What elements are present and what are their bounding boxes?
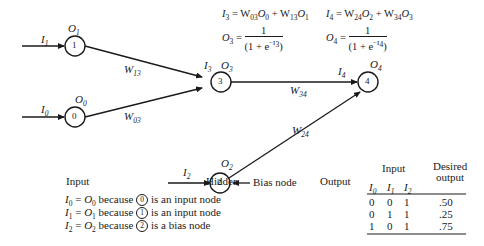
cell-i0: 0 bbox=[369, 208, 375, 220]
node-2-circled-icon: 2 bbox=[136, 220, 148, 232]
cell-desired: .75 bbox=[439, 220, 453, 232]
layer-label-input: Input bbox=[66, 175, 89, 187]
cell-desired: .50 bbox=[439, 196, 453, 208]
weight-w13: W13 bbox=[124, 63, 141, 78]
cell-i0: 0 bbox=[369, 196, 375, 208]
node-0-input-label: I0 bbox=[41, 103, 48, 118]
layer-label-output: Output bbox=[320, 175, 351, 187]
bias-node-label: Bias node bbox=[253, 176, 297, 188]
layer-label-hidden: Hidden bbox=[206, 175, 238, 187]
table-header-output: output bbox=[436, 171, 464, 183]
node-0-output-label: O0 bbox=[75, 93, 87, 108]
cell-i2: 1 bbox=[404, 196, 410, 208]
node-0-circled-icon: 0 bbox=[136, 194, 148, 206]
weight-w24: W24 bbox=[292, 124, 309, 139]
equation-o3: O3 = 1(1 + e−I3) bbox=[222, 25, 283, 53]
node-0-label: 0 bbox=[72, 111, 77, 121]
node-3-input-label: I3 bbox=[204, 59, 211, 74]
node-2-input-label: I2 bbox=[183, 166, 190, 181]
node-4-label: 4 bbox=[365, 76, 370, 86]
equation-i3: I3 = W03O0 + W13O1 bbox=[222, 8, 309, 22]
cell-i1: 1 bbox=[387, 208, 393, 220]
node-3-output-label: O3 bbox=[221, 59, 233, 74]
edge-w13 bbox=[85, 46, 202, 77]
cell-i0: 1 bbox=[369, 220, 375, 232]
node-1-label: 1 bbox=[72, 40, 77, 50]
node-4-input-label: I4 bbox=[338, 65, 345, 80]
cell-desired: .25 bbox=[439, 208, 453, 220]
equation-o4: O4 = 1(1 + e−I4) bbox=[326, 25, 387, 53]
node-2-output-label: O2 bbox=[221, 157, 233, 172]
edge-w03 bbox=[85, 88, 202, 117]
node-1-circled-icon: 1 bbox=[136, 207, 148, 219]
node-1-input-label: I1 bbox=[41, 33, 48, 48]
table-col-i1: I1 bbox=[387, 181, 394, 196]
note-row-2: I2 = O2 because 2 is a bias node bbox=[65, 219, 210, 234]
weight-w03: W03 bbox=[124, 110, 141, 125]
table-col-i2: I2 bbox=[404, 181, 411, 196]
weight-w34: W34 bbox=[290, 84, 307, 99]
node-4-output-label: O4 bbox=[370, 58, 382, 73]
cell-i2: 1 bbox=[404, 208, 410, 220]
table-group-header-input: Input bbox=[382, 162, 405, 174]
cell-i2: 1 bbox=[404, 220, 410, 232]
table-col-i0: I0 bbox=[369, 181, 376, 196]
cell-i1: 0 bbox=[387, 196, 393, 208]
cell-i1: 0 bbox=[387, 220, 393, 232]
node-3-label: 3 bbox=[218, 76, 223, 86]
node-1-output-label: O1 bbox=[68, 22, 80, 37]
equation-i4: I4 = W24O2 + W34O3 bbox=[326, 8, 413, 22]
